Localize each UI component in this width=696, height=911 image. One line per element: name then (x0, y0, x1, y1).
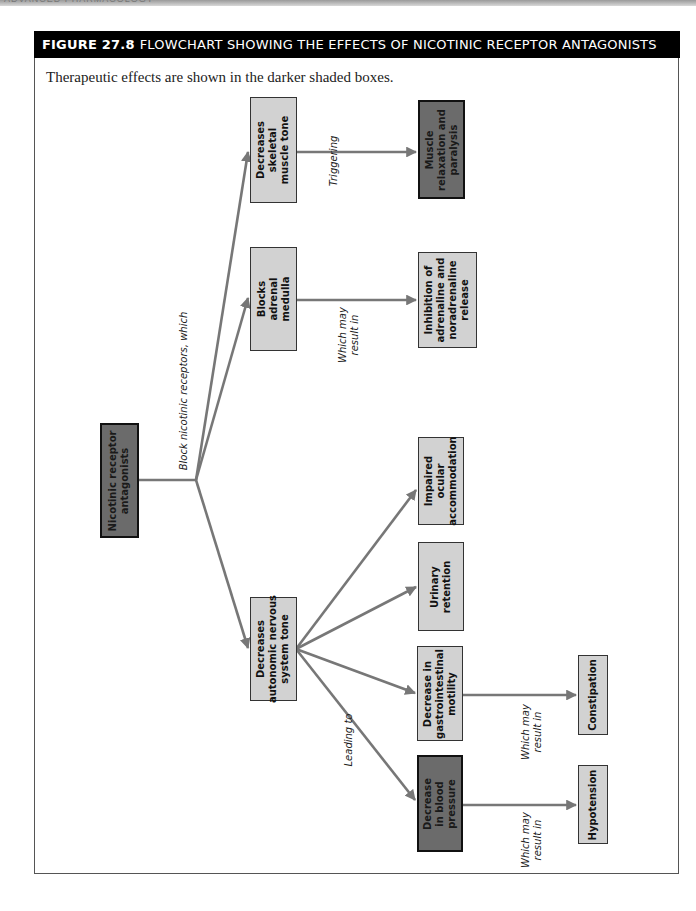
node-text: Decreases (256, 620, 267, 678)
node-text: muscle tone (280, 116, 291, 185)
node-urinary-retention: Urinaryretention (418, 542, 464, 631)
node-decreases-autonomic-tone: Decreasesautonomic nervoussystem tone (250, 597, 297, 701)
node-inhibition-adrenaline-release: Inhibition ofadrenaline andnoradrenaline… (418, 252, 477, 348)
arrow-to-adrenal (196, 298, 248, 480)
node-nicotinic-antagonists: Nicotinic receptorantagonists (100, 423, 139, 538)
node-text: Muscle (424, 130, 435, 169)
label-triggering: Triggering (328, 131, 342, 191)
label-text: Which may (520, 704, 531, 760)
node-text: gastrointestinal (434, 648, 445, 738)
node-text: Decrease (422, 777, 433, 829)
label-text: result in (532, 820, 543, 861)
node-decrease-gi-motility: Decrease ingastrointestinalmotility (417, 646, 463, 741)
label-bp-result: Which mayresult in (520, 810, 546, 870)
node-decrease-blood-pressure: Decreasein bloodpressure (417, 755, 463, 852)
node-text: paralysis (448, 124, 459, 175)
label-adrenal-result: Which mayresult in (337, 305, 363, 365)
node-text: Blocks (256, 281, 267, 317)
node-muscle-relaxation-paralysis: Musclerelaxation andparalysis (418, 100, 465, 199)
label-block-nicotinic: Block nicotinic receptors, which (178, 306, 192, 476)
node-text: in blood (434, 781, 445, 827)
label-text: Which may (337, 307, 348, 363)
node-text: Decrease in (422, 660, 433, 726)
node-text: Inhibition of (424, 266, 435, 335)
node-text: accommodation (447, 436, 458, 525)
node-text: motility (446, 672, 457, 716)
node-text: adrenaline and (436, 258, 447, 343)
node-text: Urinary (429, 566, 440, 608)
label-gi-result: Which mayresult in (520, 702, 546, 762)
node-text: Decreases (256, 121, 267, 179)
node-constipation: Constipation (578, 655, 608, 735)
label-leading-to: Leading to (343, 710, 357, 770)
node-text: autonomic nervous (268, 595, 279, 703)
node-blocks-adrenal-medulla: Blocksadrenalmedulla (250, 247, 297, 351)
node-text: relaxation and (436, 109, 447, 191)
node-text: antagonists (120, 447, 131, 514)
node-text: pressure (446, 779, 457, 829)
node-text: skeletal (268, 128, 279, 172)
node-impaired-ocular-accommodation: Impairedocularaccommodation (418, 437, 464, 525)
arrow-to-urinary (296, 587, 416, 649)
node-decreases-skeletal-muscle-tone: Decreasesskeletalmuscle tone (250, 97, 297, 203)
node-text: ocular (435, 463, 446, 498)
node-text: noradrenaline (448, 260, 459, 339)
node-hypotension: Hypotension (578, 765, 608, 844)
node-text: medulla (280, 276, 291, 321)
node-text: release (460, 279, 471, 320)
label-text: result in (349, 315, 360, 356)
node-text: Impaired (423, 456, 434, 506)
arrow-to-skeletal (196, 152, 248, 480)
node-text: Nicotinic receptor (108, 430, 119, 531)
arrow-to-ocular (296, 490, 416, 649)
node-text: adrenal (268, 278, 279, 321)
node-text: Hypotension (587, 769, 598, 840)
node-text: Constipation (587, 659, 598, 731)
node-text: system tone (280, 614, 291, 683)
node-text: retention (441, 560, 452, 613)
arrow-to-autonomic (196, 480, 248, 648)
label-text: Which may (520, 812, 531, 868)
label-text: result in (532, 712, 543, 753)
